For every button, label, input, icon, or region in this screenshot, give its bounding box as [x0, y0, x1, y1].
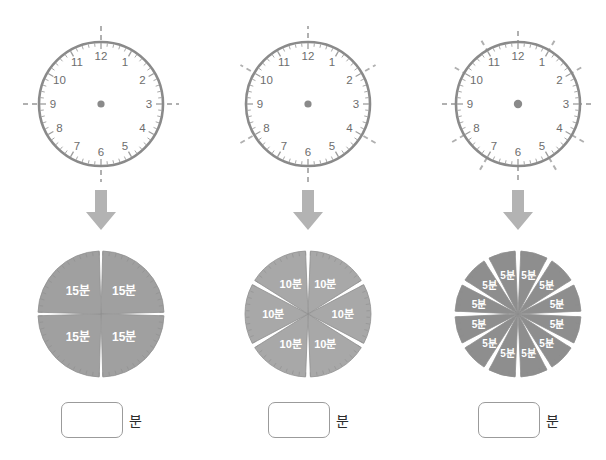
- pie-slice-label: 5분: [550, 299, 565, 310]
- pie-figure-3: 5분5분5분5분5분5분5분5분5분5분5분5분: [417, 236, 606, 392]
- pie-slice-label: 5분: [482, 280, 497, 291]
- clock-numeral: 7: [74, 140, 80, 152]
- pie-slice-label: 5분: [500, 348, 515, 359]
- pie-slice-label: 15분: [112, 284, 136, 298]
- clock-numeral: 6: [98, 146, 104, 158]
- pie-slice-label: 15분: [66, 284, 90, 298]
- clock-numeral: 4: [139, 122, 146, 134]
- pie-slice-label: 5분: [521, 270, 536, 281]
- clock-numeral: 10: [470, 74, 483, 86]
- answer-unit-2: 분: [334, 414, 348, 427]
- exercise-column-1: 121234567891011 15분15분15분15분 분: [0, 0, 202, 460]
- clock-numeral: 8: [56, 122, 62, 134]
- pie-slice-label: 5분: [550, 319, 565, 330]
- clock-numeral: 10: [260, 74, 273, 86]
- pie-slice-label: 5분: [500, 270, 515, 281]
- answer-area-3: 분: [417, 394, 606, 446]
- clock-numeral: 4: [556, 122, 563, 134]
- clock-numeral: 5: [329, 140, 335, 152]
- pie-slice: [101, 251, 164, 314]
- pie-slice: [38, 251, 101, 314]
- pie-slice-label: 15분: [66, 330, 90, 344]
- clock-numeral: 2: [346, 74, 352, 86]
- clock-sixths-svg: 121234567891011: [207, 14, 409, 194]
- pie-slice: [38, 314, 101, 377]
- pie-figure-1: 15분15분15분15분: [0, 236, 202, 392]
- pie-slice-label: 10분: [280, 278, 302, 290]
- answer-input-2[interactable]: [268, 402, 330, 438]
- clock-numeral: 12: [95, 50, 108, 62]
- answer-row: 분: [268, 402, 348, 438]
- pie-sixths-svg: 10분10분10분10분10분10분: [207, 236, 409, 392]
- clock-numeral: 11: [488, 56, 500, 68]
- answer-input-1[interactable]: [61, 402, 123, 438]
- clock-numeral: 3: [353, 98, 359, 110]
- clock-numeral: 6: [515, 146, 521, 158]
- clock-numeral: 9: [257, 98, 263, 110]
- clock-figure-1: 121234567891011: [0, 14, 202, 194]
- clock-quarters-svg: 121234567891011: [0, 14, 202, 194]
- answer-area-2: 분: [207, 394, 409, 446]
- clock-numeral: 10: [53, 74, 66, 86]
- pie-quarters-svg: 15분15분15분15분: [0, 236, 202, 392]
- exercise-column-2: 121234567891011 10분10분10분10분10분10분 분: [207, 0, 409, 460]
- exercise-column-3: 121234567891011 5분5분5분5분5분5분5분5분5분5분5분5분…: [417, 0, 606, 460]
- clock-center-dot: [514, 100, 522, 108]
- pie-slice-label: 5분: [472, 299, 487, 310]
- arrow-figure-3: [417, 186, 606, 234]
- clock-numeral: 12: [302, 50, 315, 62]
- clock-numeral: 1: [329, 56, 335, 68]
- clock-numeral: 6: [305, 146, 311, 158]
- clock-numeral: 4: [346, 122, 353, 134]
- clock-figure-2: 121234567891011: [207, 14, 409, 194]
- down-arrow-icon: [207, 186, 409, 234]
- clock-numeral: 2: [556, 74, 562, 86]
- answer-row: 분: [478, 402, 558, 438]
- answer-area-1: 분: [0, 394, 202, 446]
- clock-numeral: 11: [71, 56, 83, 68]
- pie-figure-2: 10분10분10분10분10분10분: [207, 236, 409, 392]
- clock-twelfths-svg: 121234567891011: [417, 14, 606, 194]
- clock-numeral: 3: [563, 98, 569, 110]
- clock-numeral: 1: [539, 56, 545, 68]
- pie-twelfths-svg: 5분5분5분5분5분5분5분5분5분5분5분5분: [417, 236, 606, 392]
- pie-slice-label: 5분: [482, 338, 497, 349]
- pie-slice: [101, 314, 164, 377]
- clock-numeral: 3: [146, 98, 152, 110]
- worksheet-canvas: 121234567891011 15분15분15분15분 분: [0, 0, 606, 460]
- pie-slice-label: 10분: [280, 338, 302, 350]
- clock-numeral: 9: [50, 98, 56, 110]
- clock-numeral: 1: [122, 56, 128, 68]
- clock-figure-3: 121234567891011: [417, 14, 606, 194]
- pie-slice-label: 5분: [539, 338, 554, 349]
- clock-numeral: 2: [139, 74, 145, 86]
- clock-numeral: 11: [278, 56, 290, 68]
- arrow-figure-2: [207, 186, 409, 234]
- clock-numeral: 7: [281, 140, 287, 152]
- clock-numeral: 8: [263, 122, 269, 134]
- clock-numeral: 7: [491, 140, 497, 152]
- answer-row: 분: [61, 402, 141, 438]
- down-arrow-icon: [417, 186, 606, 234]
- clock-center-dot: [97, 100, 104, 107]
- clock-numeral: 5: [122, 140, 128, 152]
- clock-center-dot: [304, 100, 311, 107]
- pie-slice-label: 10분: [332, 308, 354, 320]
- pie-slice-label: 5분: [472, 319, 487, 330]
- pie-slice-label: 5분: [521, 348, 536, 359]
- clock-numeral: 12: [512, 50, 525, 62]
- pie-slice-label: 10분: [314, 338, 336, 350]
- pie-slice-label: 10분: [262, 308, 284, 320]
- answer-unit-1: 분: [127, 414, 141, 427]
- answer-unit-3: 분: [544, 414, 558, 427]
- clock-numeral: 9: [467, 98, 473, 110]
- clock-numeral: 8: [473, 122, 479, 134]
- pie-slice-label: 10분: [314, 278, 336, 290]
- pie-slice-label: 5분: [539, 280, 554, 291]
- down-arrow-icon: [0, 186, 202, 234]
- arrow-figure-1: [0, 186, 202, 234]
- answer-input-3[interactable]: [478, 402, 540, 438]
- pie-slice-label: 15분: [112, 330, 136, 344]
- clock-numeral: 5: [539, 140, 545, 152]
